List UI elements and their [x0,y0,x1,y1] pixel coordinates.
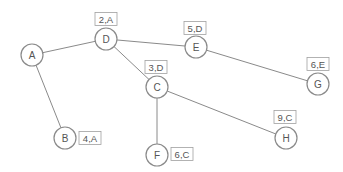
tag-label: 4,A [83,133,98,144]
tag-b: 4,A [79,132,101,145]
node-a: A [21,44,43,66]
edge-c-h [167,91,276,134]
node-label: B [62,133,69,144]
edge-d-e [117,40,185,46]
nodes-layer: ADECGBHF [21,28,329,166]
tag-label: 2,A [99,14,114,25]
node-h: H [275,127,297,149]
node-c: C [146,76,168,98]
tag-e: 5,D [184,22,206,35]
node-g: G [307,73,329,95]
node-label: F [154,150,160,161]
node-label: A [29,50,36,61]
edge-d-c [114,47,149,80]
node-label: E [193,42,200,53]
edge-a-b [36,65,61,128]
node-f: F [146,144,168,166]
node-label: D [102,34,109,45]
tag-label: 5,D [188,23,203,34]
tag-f: 6,C [171,148,193,161]
tag-d: 2,A [95,13,117,26]
tag-label: 6,C [175,149,190,160]
tag-label: 6,E [311,59,325,70]
tag-label: 3,D [149,62,164,73]
tag-h: 9,C [274,111,296,124]
node-label: H [282,133,289,144]
node-label: C [153,82,160,93]
edges-layer [36,40,307,144]
tag-c: 3,D [145,61,167,74]
tag-g: 6,E [307,58,329,71]
node-label: G [314,79,322,90]
node-b: B [54,127,76,149]
node-d: D [95,28,117,50]
tag-label: 9,C [278,112,293,123]
edge-a-d [43,41,95,52]
edge-e-g [207,50,308,81]
graph-diagram: ADECGBHF 2,A5,D3,D6,E4,A9,C6,C [0,0,343,172]
node-e: E [185,36,207,58]
